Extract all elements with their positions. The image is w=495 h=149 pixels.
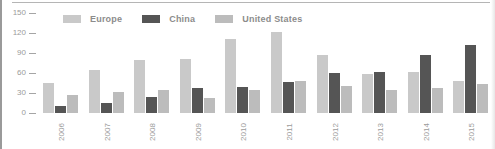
y-tick: 90 (4, 48, 40, 58)
bar-united-states-2007[interactable] (113, 92, 124, 113)
x-tick-label: 2012 (315, 120, 355, 144)
x-tick-text: 2009 (193, 123, 202, 141)
bar-united-states-2015[interactable] (477, 84, 488, 113)
bar-group-2012 (317, 3, 357, 113)
bar-china-2013[interactable] (374, 72, 385, 113)
y-tick-mark (29, 73, 36, 74)
y-tick: 30 (4, 88, 40, 98)
bar-europe-2008[interactable] (134, 60, 145, 113)
bar-united-states-2013[interactable] (386, 90, 397, 113)
bar-united-states-2011[interactable] (295, 81, 306, 113)
bar-europe-2007[interactable] (89, 70, 100, 113)
x-tick-text: 2013 (376, 123, 385, 141)
x-tick-label: 2009 (178, 120, 218, 144)
y-tick-label: 90 (17, 48, 26, 58)
y-tick: 150 (4, 8, 40, 18)
x-tick-label: 2006 (41, 120, 81, 144)
bar-united-states-2010[interactable] (249, 90, 260, 113)
bar-group-2008 (134, 3, 174, 113)
y-tick: 120 (4, 28, 40, 38)
x-tick-label: 2015 (451, 120, 491, 144)
bar-europe-2009[interactable] (180, 59, 191, 113)
bar-group-2014 (408, 3, 448, 113)
x-tick-label: 2010 (223, 120, 263, 144)
bar-europe-2014[interactable] (408, 72, 419, 113)
y-tick-mark (29, 13, 36, 14)
bar-china-2010[interactable] (237, 87, 248, 113)
bar-united-states-2009[interactable] (204, 98, 215, 113)
y-tick-label: 0 (22, 108, 26, 118)
bar-united-states-2008[interactable] (158, 90, 169, 113)
bar-group-2010 (225, 3, 265, 113)
x-tick-label: 2013 (360, 120, 400, 144)
bar-group-2011 (271, 3, 311, 113)
y-tick-label: 30 (17, 88, 26, 98)
y-tick-label: 120 (13, 28, 26, 38)
bar-europe-2012[interactable] (317, 55, 328, 113)
y-axis: 1501209060300 (0, 0, 42, 149)
plot-area: 2006200720082009201020112012201320142015 (42, 0, 495, 149)
bar-china-2007[interactable] (101, 103, 112, 113)
bar-europe-2006[interactable] (43, 83, 54, 113)
bar-united-states-2006[interactable] (67, 95, 78, 113)
y-tick-label: 150 (13, 8, 26, 18)
bar-china-2014[interactable] (420, 55, 431, 113)
y-tick-mark (29, 33, 36, 34)
bar-united-states-2012[interactable] (341, 86, 352, 113)
x-tick-label: 2014 (406, 120, 446, 144)
y-tick: 60 (4, 68, 40, 78)
x-tick-text: 2014 (421, 123, 430, 141)
x-tick-label: 2011 (269, 120, 309, 144)
bar-china-2012[interactable] (329, 73, 340, 113)
bar-china-2009[interactable] (192, 88, 203, 113)
bar-china-2006[interactable] (55, 106, 66, 113)
x-tick-text: 2006 (57, 123, 66, 141)
x-tick-label: 2008 (132, 120, 172, 144)
bar-china-2015[interactable] (465, 45, 476, 113)
bar-group-2007 (89, 3, 129, 113)
bar-group-2015 (453, 3, 493, 113)
y-tick-mark (29, 113, 36, 114)
bar-group-2006 (43, 3, 83, 113)
x-tick-text: 2012 (330, 123, 339, 141)
bar-europe-2013[interactable] (362, 74, 373, 113)
x-tick-text: 2007 (102, 123, 111, 141)
bar-europe-2011[interactable] (271, 32, 282, 113)
x-tick-label: 2007 (87, 120, 127, 144)
y-tick: 0 (4, 108, 40, 118)
x-tick-text: 2010 (239, 123, 248, 141)
bar-group-2009 (180, 3, 220, 113)
bar-china-2011[interactable] (283, 82, 294, 113)
bar-united-states-2014[interactable] (432, 88, 443, 113)
y-tick-label: 60 (17, 68, 26, 78)
bar-group-2013 (362, 3, 402, 113)
x-tick-text: 2015 (467, 123, 476, 141)
bar-europe-2010[interactable] (225, 39, 236, 113)
y-tick-mark (29, 53, 36, 54)
bar-europe-2015[interactable] (453, 81, 464, 113)
y-tick-mark (29, 93, 36, 94)
x-tick-text: 2011 (285, 123, 294, 140)
bar-china-2008[interactable] (146, 97, 157, 113)
x-tick-text: 2008 (148, 123, 157, 141)
